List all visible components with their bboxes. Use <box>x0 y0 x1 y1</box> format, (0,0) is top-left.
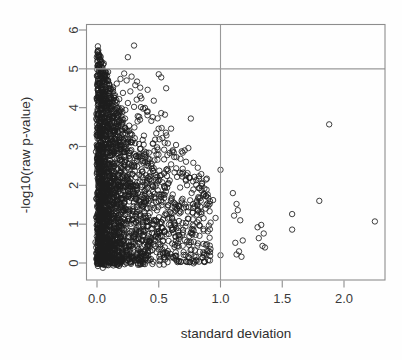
x-tick-label: 0.5 <box>150 291 168 306</box>
y-tick-label: 5 <box>66 65 81 72</box>
x-tick-label: 0.0 <box>88 291 106 306</box>
plot-canvas: 0.00.51.01.52.0 0123456 standard deviati… <box>0 0 402 360</box>
y-tick-label: 0 <box>66 259 81 266</box>
scatter-plot-figure: 0.00.51.01.52.0 0123456 standard deviati… <box>0 0 402 360</box>
y-axis-title: -log10(raw p-value) <box>18 97 33 213</box>
x-axis-title: standard deviation <box>181 326 291 341</box>
y-tick-label: 3 <box>66 143 81 150</box>
x-tick-label: 2.0 <box>335 291 353 306</box>
y-tick-label: 2 <box>66 182 81 189</box>
y-tick-label: 4 <box>66 104 81 111</box>
y-tick-label: 1 <box>66 221 81 228</box>
x-tick-label: 1.5 <box>273 291 291 306</box>
x-tick-label: 1.0 <box>211 291 229 306</box>
y-tick-label: 6 <box>66 26 81 33</box>
